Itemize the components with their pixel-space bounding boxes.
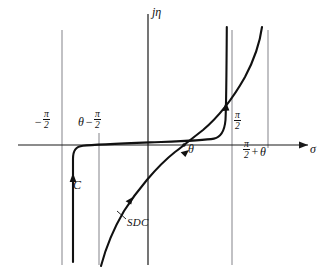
fraction-denominator: 2 xyxy=(234,120,241,131)
sdc-leader-line xyxy=(117,211,126,219)
theta-symbol: θ xyxy=(188,143,194,155)
fraction-numerator: π xyxy=(94,109,101,119)
fraction-denominator: 2 xyxy=(43,119,50,130)
gridlines xyxy=(62,30,268,265)
plot-canvas xyxy=(0,0,331,267)
y-axis-label: jη xyxy=(152,5,161,18)
curve-sdc-label-text: SDC xyxy=(127,217,149,228)
annotation-curve-sdc: SDC xyxy=(127,216,149,228)
plus-sign: + xyxy=(250,146,260,158)
tick-label-pi-half-plus-theta: π2+θ xyxy=(243,141,266,162)
x-axis-label: σ xyxy=(310,142,316,155)
theta-symbol: θ xyxy=(260,146,266,158)
fraction-numerator: π xyxy=(234,110,241,120)
tick-label-pi-half: π2 xyxy=(234,112,241,133)
fraction-pi-over-2: π2 xyxy=(234,110,241,131)
minus-sign: − xyxy=(33,116,43,128)
fraction-denominator: 2 xyxy=(243,149,250,160)
fraction-pi-over-2: π2 xyxy=(243,139,250,160)
tick-label-neg-pi-half: −π2 xyxy=(33,111,50,132)
fraction-numerator: π xyxy=(243,139,250,149)
y-axis-label-text: jη xyxy=(152,6,161,18)
saddle-point-marker xyxy=(182,143,185,146)
fraction-numerator: π xyxy=(43,109,50,119)
sigma-axis-arrowhead xyxy=(299,142,308,149)
curve-sdc xyxy=(101,27,262,266)
minus-sign: − xyxy=(84,116,94,128)
annotation-curve-c: C xyxy=(73,178,81,191)
fraction-pi-over-2: π2 xyxy=(94,109,101,130)
tick-label-theta-minus-pi-half: θ−π2 xyxy=(78,111,101,132)
curve-c-label-text: C xyxy=(73,179,81,191)
annotation-theta: θ xyxy=(188,142,194,155)
x-axis-label-text: σ xyxy=(310,143,316,155)
figure-container: jη σ −π2 θ−π2 π2 π2+θ θ C SDC xyxy=(0,0,331,267)
curve-sdc-path xyxy=(101,27,262,266)
fraction-denominator: 2 xyxy=(94,119,101,130)
fraction-pi-over-2: π2 xyxy=(43,109,50,130)
